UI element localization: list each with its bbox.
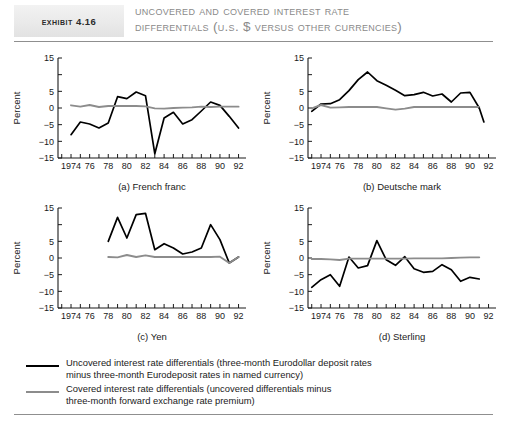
exhibit-title: Uncovered and Covered Interest Rate Diff… <box>135 3 505 35</box>
panel-caption: (b) Deutsche mark <box>363 181 441 192</box>
svg-text:88: 88 <box>196 311 206 321</box>
svg-text:15: 15 <box>44 53 54 63</box>
svg-text:92: 92 <box>234 161 244 171</box>
series-line <box>71 92 239 154</box>
svg-text:86: 86 <box>428 311 438 321</box>
svg-text:−5: −5 <box>294 270 304 280</box>
series-line <box>312 241 480 288</box>
legend-covered-line1: Covered interest rate differentials (unc… <box>66 383 331 395</box>
svg-text:−15: −15 <box>39 153 54 163</box>
legend-uncovered-line1: Uncovered interest rate differentials (t… <box>66 357 372 369</box>
svg-text:86: 86 <box>428 161 438 171</box>
svg-text:82: 82 <box>390 311 400 321</box>
svg-text:1974: 1974 <box>61 161 81 171</box>
y-axis-label: Percent <box>261 91 272 124</box>
svg-text:78: 78 <box>103 311 113 321</box>
exhibit-title-line2: Differentials (U.S. $ versus Other Curre… <box>135 19 505 35</box>
svg-text:92: 92 <box>234 311 244 321</box>
svg-text:82: 82 <box>140 311 150 321</box>
svg-text:84: 84 <box>159 161 169 171</box>
svg-text:5: 5 <box>49 237 54 247</box>
exhibit-header: Exhibit 4.16 Uncovered and Covered Inter… <box>0 0 507 44</box>
panel-caption: (d) Sterling <box>379 331 425 342</box>
svg-text:78: 78 <box>353 311 363 321</box>
svg-text:86: 86 <box>178 161 188 171</box>
svg-text:90: 90 <box>215 311 225 321</box>
header-divider <box>14 41 493 42</box>
svg-text:80: 80 <box>122 161 132 171</box>
exhibit-tag-label: Exhibit 4.16 <box>42 16 97 27</box>
exhibit-title-line1: Uncovered and Covered Interest Rate <box>135 3 505 19</box>
svg-text:5: 5 <box>49 87 54 97</box>
svg-text:1974: 1974 <box>311 311 331 321</box>
svg-text:92: 92 <box>484 311 494 321</box>
svg-text:−15: −15 <box>289 303 304 313</box>
svg-text:86: 86 <box>178 311 188 321</box>
svg-text:−10: −10 <box>39 287 54 297</box>
svg-text:76: 76 <box>85 161 95 171</box>
svg-text:80: 80 <box>372 311 382 321</box>
svg-text:−10: −10 <box>289 287 304 297</box>
series-line <box>108 255 238 263</box>
svg-text:90: 90 <box>215 161 225 171</box>
svg-text:5: 5 <box>299 237 304 247</box>
series-line <box>71 105 239 109</box>
panel-caption: (c) Yen <box>137 331 167 342</box>
svg-text:1974: 1974 <box>311 161 331 171</box>
svg-text:−15: −15 <box>39 303 54 313</box>
svg-text:84: 84 <box>159 311 169 321</box>
exhibit-tag: Exhibit 4.16 <box>14 5 124 37</box>
svg-text:1974: 1974 <box>61 311 81 321</box>
legend-text-uncovered: Uncovered interest rate differentials (t… <box>59 357 372 380</box>
svg-text:0: 0 <box>299 253 304 263</box>
axis-lines <box>58 208 246 308</box>
svg-text:80: 80 <box>122 311 132 321</box>
svg-text:−10: −10 <box>39 137 54 147</box>
y-axis-label: Percent <box>11 91 22 124</box>
x-axis-ticks: 1974767880828486889092 <box>311 154 494 171</box>
svg-text:−15: −15 <box>289 153 304 163</box>
svg-text:76: 76 <box>335 311 345 321</box>
series-line <box>312 72 480 111</box>
chart-legend: Uncovered interest rate differentials (t… <box>26 357 446 409</box>
svg-text:88: 88 <box>196 161 206 171</box>
x-axis-ticks: 1974767880828486889092 <box>61 304 244 321</box>
legend-line-black-icon <box>26 360 59 372</box>
chart-panel-yen: 1550−5−10−151974767880828486889092Percen… <box>6 198 252 348</box>
legend-uncovered-line2: minus three-month Eurodeposit rates in n… <box>66 369 372 381</box>
svg-text:84: 84 <box>409 161 419 171</box>
series-line <box>312 105 480 110</box>
panel-caption: (a) French franc <box>118 181 186 192</box>
legend-item-covered: Covered interest rate differentials (unc… <box>26 383 446 406</box>
svg-text:76: 76 <box>335 161 345 171</box>
svg-text:90: 90 <box>465 161 475 171</box>
svg-text:92: 92 <box>484 161 494 171</box>
svg-text:−5: −5 <box>44 270 54 280</box>
svg-text:0: 0 <box>49 103 54 113</box>
svg-text:80: 80 <box>372 161 382 171</box>
legend-line-gray-icon <box>26 386 59 398</box>
svg-text:78: 78 <box>353 161 363 171</box>
svg-text:15: 15 <box>294 53 304 63</box>
svg-text:−5: −5 <box>294 120 304 130</box>
svg-text:15: 15 <box>44 203 54 213</box>
chart-panel-deutsche-mark: 1550−5−10−151974767880828486889092Percen… <box>256 48 502 198</box>
series-line <box>479 108 484 122</box>
svg-text:0: 0 <box>49 253 54 263</box>
svg-text:15: 15 <box>294 203 304 213</box>
svg-text:78: 78 <box>103 161 113 171</box>
x-axis-ticks: 1974767880828486889092 <box>311 304 494 321</box>
svg-text:0: 0 <box>299 103 304 113</box>
chart-panel-sterling: 1550−5−10−151974767880828486889092Percen… <box>256 198 502 348</box>
legend-covered-line2: three-month forward exchange rate premiu… <box>66 395 331 407</box>
svg-text:90: 90 <box>465 311 475 321</box>
svg-text:76: 76 <box>85 311 95 321</box>
svg-text:−5: −5 <box>44 120 54 130</box>
svg-text:82: 82 <box>140 161 150 171</box>
y-axis-label: Percent <box>11 241 22 274</box>
svg-text:5: 5 <box>299 87 304 97</box>
svg-text:84: 84 <box>409 311 419 321</box>
x-axis-ticks: 1974767880828486889092 <box>61 154 244 171</box>
series-line <box>312 257 480 260</box>
svg-text:88: 88 <box>446 311 456 321</box>
